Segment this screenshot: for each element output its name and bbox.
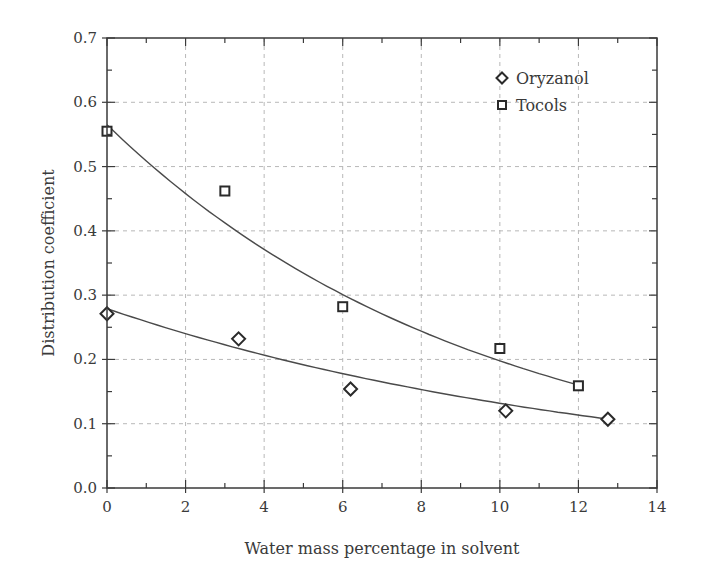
- x-tick-label: 4: [259, 498, 269, 516]
- legend-label: Oryzanol: [516, 69, 589, 88]
- y-tick-label: 0.2: [73, 350, 97, 368]
- y-tick-label: 0.6: [73, 93, 97, 111]
- data-point-tocols: [338, 302, 347, 311]
- legend-item-tocols: Tocols: [498, 96, 567, 115]
- plot-frame: [107, 38, 657, 488]
- x-tick-label: 12: [569, 498, 588, 516]
- data-point-tocols: [220, 187, 229, 196]
- x-axis-title: Water mass percentage in solvent: [244, 539, 520, 558]
- data-point-oryzanol: [344, 383, 357, 396]
- x-tick-labels: 02468101214: [102, 498, 666, 516]
- data-point-oryzanol: [499, 404, 512, 417]
- legend: Oryzanol Tocols: [497, 69, 589, 115]
- y-axis-title: Distribution coefficient: [39, 169, 58, 357]
- data-points: [101, 127, 615, 426]
- y-tick-label: 0.1: [73, 415, 97, 433]
- y-tick-label: 0.3: [73, 286, 97, 304]
- x-tick-label: 14: [647, 498, 666, 516]
- data-point-tocols: [495, 344, 504, 353]
- x-tick-label: 6: [338, 498, 348, 516]
- y-tick-label: 0.0: [73, 479, 97, 497]
- chart-canvas: 02468101214 0.00.10.20.30.40.50.60.7 Wat…: [0, 0, 703, 583]
- x-tick-label: 10: [490, 498, 509, 516]
- x-tick-label: 8: [417, 498, 427, 516]
- data-point-tocols: [574, 381, 583, 390]
- grid-lines: [107, 38, 657, 488]
- data-point-oryzanol: [232, 332, 245, 345]
- y-tick-labels: 0.00.10.20.30.40.50.60.7: [73, 29, 97, 497]
- legend-label: Tocols: [516, 96, 567, 115]
- y-tick-label: 0.7: [73, 29, 97, 47]
- fit-curve-oryzanol: [107, 309, 608, 420]
- y-tick-label: 0.5: [73, 158, 97, 176]
- x-tick-label: 0: [102, 498, 112, 516]
- square-marker-icon: [498, 101, 506, 109]
- fit-curves: [107, 125, 608, 419]
- legend-item-oryzanol: Oryzanol: [497, 69, 589, 88]
- y-tick-label: 0.4: [73, 222, 97, 240]
- x-tick-label: 2: [181, 498, 191, 516]
- diamond-marker-icon: [497, 73, 508, 84]
